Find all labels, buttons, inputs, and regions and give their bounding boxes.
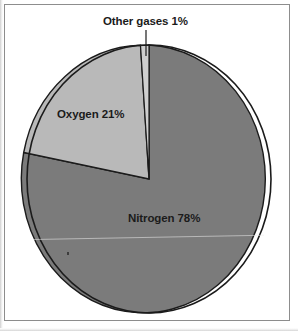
- pie-label-other-gases: Other gases 1%: [103, 15, 188, 27]
- pie-label-nitrogen: Nitrogen 78%: [128, 212, 200, 224]
- pie-chart-canvas: Other gases 1% Oxygen 21% Nitrogen 78%: [0, 0, 298, 331]
- pie-chart-figure: Other gases 1% Oxygen 21% Nitrogen 78%: [0, 0, 298, 331]
- pie-chart-svg: [0, 0, 298, 331]
- pie-label-oxygen: Oxygen 21%: [57, 108, 124, 120]
